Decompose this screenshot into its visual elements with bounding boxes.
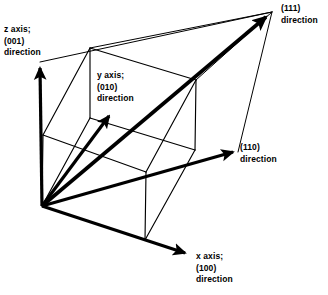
face-diagonal-label: (110) direction: [240, 142, 277, 165]
y-axis-label-line1: y axis;: [97, 70, 134, 82]
z-axis-label-line1: z axis;: [4, 24, 41, 36]
z-axis-label-line3: direction: [4, 47, 41, 59]
body-diagonal-111-arrow: [42, 17, 266, 206]
cube-edge-connect-top-right: [146, 80, 196, 172]
construction-lines: [40, 12, 272, 152]
x-axis-label-line1: x axis;: [196, 251, 233, 263]
y-axis-arrow: [42, 116, 109, 206]
body-diagonal-label-line2: direction: [281, 15, 318, 27]
cube-edge-front-right: [145, 172, 146, 240]
cube-edge-connect-top-left: [43, 48, 90, 135]
z-axis-arrow: [40, 68, 42, 206]
x-axis-label-line3: direction: [196, 274, 233, 286]
x-axis-arrow: [42, 206, 185, 253]
body-diagonal-label-line1: (111): [281, 3, 318, 15]
cube-edge-connect-bottom-left: [42, 118, 90, 206]
z-axis-label: z axis; (001) direction: [4, 24, 41, 59]
x-axis-label-line2: (100): [196, 263, 233, 275]
y-axis-label: y axis; (010) direction: [97, 70, 134, 105]
face-diagonal-110-arrow: [42, 152, 233, 206]
body-diagonal-label: (111) direction: [281, 3, 318, 26]
x-axis-label: x axis; (100) direction: [196, 251, 233, 286]
z-axis-label-line2: (001): [4, 36, 41, 48]
face-diagonal-label-line1: (110): [240, 142, 277, 154]
cube-edge-back-right: [195, 80, 196, 150]
crystallographic-directions-figure: z axis; (001) direction y axis; (010) di…: [0, 0, 328, 295]
cube-edge-front-top: [43, 135, 146, 172]
construction-line-ztip-to-111: [40, 12, 272, 62]
face-diagonal-label-line2: direction: [240, 154, 277, 166]
y-axis-label-line2: (010): [97, 82, 134, 94]
construction-line-111-to-110-corner: [238, 12, 272, 152]
y-axis-label-line3: direction: [97, 93, 134, 105]
diagram-canvas: [0, 0, 328, 295]
